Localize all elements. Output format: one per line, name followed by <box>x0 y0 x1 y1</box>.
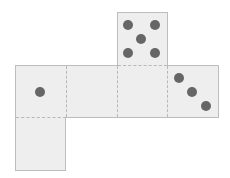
pip <box>136 34 146 44</box>
pip <box>35 87 45 97</box>
fold-line <box>117 66 118 117</box>
pip <box>201 101 211 111</box>
fold-line <box>118 65 167 66</box>
fold-line <box>66 66 67 117</box>
pip <box>123 20 133 30</box>
pip <box>150 48 160 58</box>
face-bottom <box>15 117 66 171</box>
pip <box>174 73 184 83</box>
pip <box>150 20 160 30</box>
pip <box>187 87 197 97</box>
pip <box>123 48 133 58</box>
fold-line <box>167 66 168 117</box>
fold-line <box>16 117 66 118</box>
